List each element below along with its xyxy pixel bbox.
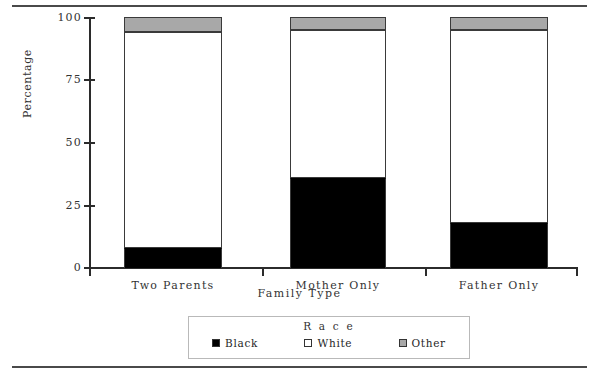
y-axis-title: Percentage xyxy=(21,49,34,118)
stacked-bar-chart-figure: Percentage 100 75 50 25 0 xyxy=(0,0,599,380)
y-tick-label-50: 50 xyxy=(36,136,82,149)
x-tick-end xyxy=(576,267,578,276)
y-tick-label-75: 75 xyxy=(36,73,82,86)
bar-segment-white[interactable] xyxy=(450,30,548,223)
legend-item-other[interactable]: Other xyxy=(399,337,446,349)
legend-label-other: Other xyxy=(412,337,446,349)
plot-area: Two Parents Mother Only Father Only xyxy=(89,17,578,268)
bar-segment-black[interactable] xyxy=(124,248,222,268)
legend-title: R a c e xyxy=(189,320,469,332)
chart-legend: R a c e Black White Other xyxy=(188,316,470,359)
y-tick-100 xyxy=(84,17,95,19)
y-tick-50 xyxy=(84,142,95,144)
x-tick-start xyxy=(89,267,91,276)
y-tick-label-25: 25 xyxy=(36,199,82,212)
y-tick-label-100: 100 xyxy=(36,11,82,24)
legend-label-white: White xyxy=(317,337,352,349)
bar-segment-black[interactable] xyxy=(450,223,548,268)
bar-segment-other[interactable] xyxy=(290,17,386,30)
bar-segment-other[interactable] xyxy=(450,17,548,30)
bar-mother-only[interactable] xyxy=(290,17,386,268)
legend-item-white[interactable]: White xyxy=(304,337,352,349)
legend-item-black[interactable]: Black xyxy=(212,337,258,349)
bar-segment-other[interactable] xyxy=(124,17,222,32)
x-tick-1 xyxy=(262,267,264,276)
legend-label-black: Black xyxy=(225,337,258,349)
bar-segment-white[interactable] xyxy=(124,32,222,248)
bar-segment-black[interactable] xyxy=(290,178,386,268)
bar-two-parents[interactable] xyxy=(124,17,222,268)
legend-swatch-other-icon xyxy=(399,339,407,347)
legend-swatch-black-icon xyxy=(212,339,220,347)
y-tick-25 xyxy=(84,205,95,207)
legend-swatch-white-icon xyxy=(304,339,312,347)
bar-father-only[interactable] xyxy=(450,17,548,268)
x-tick-2 xyxy=(425,267,427,276)
y-tick-label-0: 0 xyxy=(36,261,82,274)
x-axis-title: Family Type xyxy=(0,287,599,300)
bar-segment-white[interactable] xyxy=(290,30,386,178)
legend-items: Black White Other xyxy=(189,337,469,349)
y-tick-75 xyxy=(84,79,95,81)
